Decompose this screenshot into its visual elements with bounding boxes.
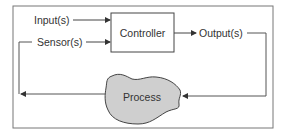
control-loop-diagram: Controller Input(s) Sensor(s) Output(s) …	[0, 0, 283, 135]
sensors-label: Sensor(s)	[37, 36, 83, 48]
outputs-label: Output(s)	[199, 27, 243, 39]
process-label: Process	[123, 91, 161, 103]
controller-node: Controller	[111, 13, 174, 52]
outputs-to-process-line	[183, 33, 266, 96]
controller-label: Controller	[120, 27, 166, 39]
sensors-feedback-line	[19, 42, 32, 94]
process-node: Process	[105, 74, 180, 124]
inputs-label: Input(s)	[34, 14, 70, 26]
